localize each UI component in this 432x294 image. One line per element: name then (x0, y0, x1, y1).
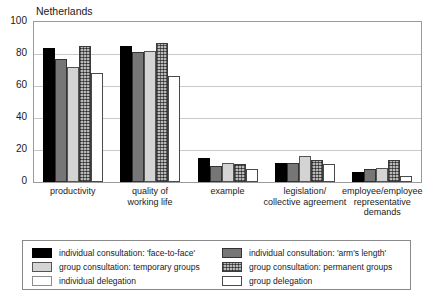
legend-item: individual consultation: 'face-to-face' (32, 246, 222, 259)
legend-item: individual delegation (32, 274, 222, 287)
y-tick-label: 20 (0, 144, 27, 154)
legend-label: individual consultation: 'arm's length' (249, 248, 386, 258)
bar (132, 52, 144, 182)
legend-label: individual consultation: 'face-to-face' (59, 248, 195, 258)
legend-item: group delegation (222, 274, 412, 287)
legend-swatch (32, 276, 52, 286)
x-axis-label-line: representative (332, 197, 432, 208)
bar (120, 46, 132, 182)
bar (376, 168, 388, 182)
bar (168, 76, 180, 182)
y-tick-label: 80 (0, 48, 27, 58)
legend-label: group consultation: permanent groups (249, 262, 392, 272)
legend-item: group consultation: permanent groups (222, 260, 412, 273)
bar (222, 163, 234, 182)
legend-column-right: individual consultation: 'arm's length'g… (222, 246, 412, 288)
y-tick-label: 0 (0, 176, 27, 186)
bars-layer (34, 22, 421, 182)
bar-group (120, 22, 180, 182)
bar (91, 73, 103, 182)
legend-label: group consultation: temporary groups (59, 262, 200, 272)
bar (364, 169, 376, 182)
legend-column-left: individual consultation: 'face-to-face'g… (32, 246, 222, 288)
bar (388, 160, 400, 182)
legend-swatch (32, 248, 52, 258)
legend-item: individual consultation: 'arm's length' (222, 246, 412, 259)
legend-item: group consultation: temporary groups (32, 260, 222, 273)
bar (323, 164, 335, 182)
bar (55, 59, 67, 182)
bar (275, 163, 287, 182)
bar (198, 158, 210, 182)
bar (287, 163, 299, 182)
y-tick-label: 40 (0, 112, 27, 122)
legend-swatch (222, 248, 242, 258)
bar (156, 43, 168, 182)
y-tick-label: 100 (0, 16, 27, 26)
bar (299, 156, 311, 182)
bar (67, 67, 79, 182)
x-axis-label: employee/employeerepresentativedemands (332, 186, 432, 218)
legend-label: individual delegation (59, 276, 136, 286)
bar (210, 166, 222, 182)
legend-swatch (222, 276, 242, 286)
bar (352, 172, 364, 182)
x-axis-label-line: demands (332, 207, 432, 218)
bar (144, 51, 156, 182)
bar (234, 164, 246, 182)
x-axis-labels: productivityquality ofworking lifeexampl… (34, 186, 421, 230)
legend-swatch (222, 262, 242, 272)
chart-figure: Netherlands 100 80 60 40 20 0 productivi… (0, 0, 432, 294)
bar-group (275, 22, 335, 182)
bar (311, 160, 323, 182)
chart-legend: individual consultation: 'face-to-face'g… (22, 240, 411, 290)
bar (400, 176, 412, 182)
legend-label: group delegation (249, 276, 312, 286)
bar (246, 169, 258, 182)
chart-title: Netherlands (36, 5, 93, 17)
x-axis-label-line: working life (99, 197, 200, 208)
y-tick-label: 60 (0, 80, 27, 90)
bar-group (352, 22, 412, 182)
bar (43, 48, 55, 182)
x-axis-label-line: employee/employee (332, 186, 432, 197)
bar-group (43, 22, 103, 182)
bar-group (198, 22, 258, 182)
bar (79, 46, 91, 182)
legend-swatch (32, 262, 52, 272)
